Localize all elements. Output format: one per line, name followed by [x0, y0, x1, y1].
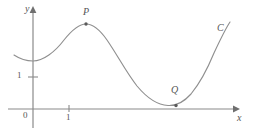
plot-canvas [0, 0, 257, 136]
origin-label: 0 [23, 111, 28, 120]
curve-c-path [14, 22, 230, 106]
y-axis-label: y [25, 4, 29, 14]
point-q-marker [174, 104, 177, 107]
curve-c-label: C [217, 23, 224, 33]
point-p-marker [84, 22, 87, 25]
y-axis-arrowhead [30, 6, 37, 13]
point-p-label: P [83, 7, 89, 17]
x-tick-label-1: 1 [66, 113, 71, 122]
point-q-label: Q [171, 85, 178, 95]
y-tick-label-1: 1 [17, 71, 22, 80]
x-axis-label: x [237, 113, 241, 123]
curve-figure: y x P Q C 0 1 1 [0, 0, 257, 136]
